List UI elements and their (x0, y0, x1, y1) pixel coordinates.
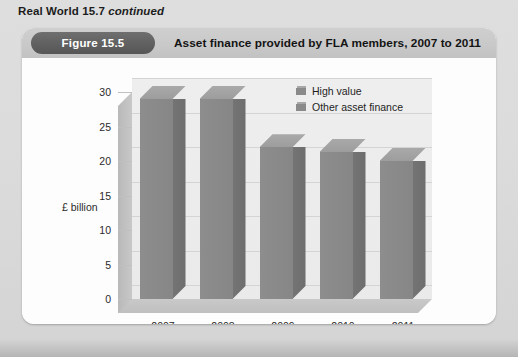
gridline-edge (118, 196, 132, 197)
chart-left-wall (118, 92, 132, 313)
x-axis-tick-label: 2007 (151, 320, 174, 324)
x-axis-tick-label: 2009 (271, 320, 294, 324)
chart-floor (118, 299, 432, 313)
gridline (132, 78, 432, 79)
bar (200, 99, 233, 299)
x-axis-tick-label: 2008 (211, 320, 234, 324)
y-axis-tick-label: 15 (99, 190, 111, 202)
y-axis-tick-label: 20 (99, 155, 111, 167)
chart-legend: High valueOther asset finance (296, 84, 403, 116)
gridline-edge (118, 92, 132, 93)
x-axis-tick-label: 2011 (392, 320, 415, 324)
figure-header: Figure 15.5 Asset finance provided by FL… (22, 28, 496, 58)
real-world-caption: Real World 15.7 continued (18, 5, 164, 17)
legend-label: Other asset finance (312, 101, 403, 113)
figure-number-badge: Figure 15.5 (31, 32, 155, 54)
y-axis-tick-label: 5 (105, 259, 111, 271)
legend-item: High value (296, 84, 403, 98)
bar-front-face (260, 147, 293, 299)
y-axis-tick-label: 0 (105, 293, 111, 305)
figure-title: Asset finance provided by FLA members, 2… (174, 28, 481, 58)
bar-side-face (233, 99, 246, 299)
legend-swatch-icon (296, 88, 306, 95)
bar (320, 152, 353, 299)
gridline-edge (118, 230, 132, 231)
y-axis-tick-label: 25 (99, 121, 111, 133)
figure-page: Real World 15.7 continued Figure 15.5 As… (0, 0, 518, 357)
bar-front-face (200, 99, 233, 299)
bar-side-face (293, 147, 306, 299)
y-axis-tick-label: 10 (99, 224, 111, 236)
bar (380, 161, 413, 299)
y-axis-label: £ billion (62, 201, 98, 213)
bar-side-face (173, 99, 186, 299)
gridline-edge (118, 299, 132, 300)
real-world-caption-continued: continued (108, 5, 164, 17)
gridline-edge (118, 161, 132, 162)
bar-side-face (353, 152, 366, 299)
bar (140, 99, 173, 299)
bar-side-face (413, 161, 426, 299)
bar (260, 147, 293, 299)
legend-swatch-icon (296, 104, 306, 111)
legend-item: Other asset finance (296, 100, 403, 114)
page-shadow (0, 339, 518, 357)
figure-card: Figure 15.5 Asset finance provided by FL… (22, 28, 496, 324)
y-axis-tick-label: 30 (99, 86, 111, 98)
chart-panel: £ billion 051015202530 20072008200920102… (22, 58, 496, 324)
chart-plot-area: 051015202530 20072008200920102011 High v… (118, 92, 432, 313)
gridline-edge (118, 127, 132, 128)
real-world-caption-title: Real World 15.7 (18, 5, 105, 17)
bar-front-face (320, 152, 353, 299)
gridline-edge (118, 265, 132, 266)
bar-front-face (140, 99, 173, 299)
legend-label: High value (312, 85, 362, 97)
x-axis-tick-label: 2010 (331, 320, 354, 324)
bar-front-face (380, 161, 413, 299)
